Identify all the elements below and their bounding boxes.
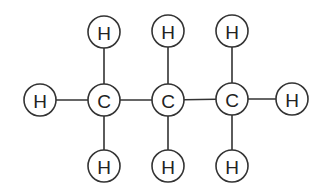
hydrogen-atom-h6: H [88, 150, 120, 182]
carbon-atom-c2: C [152, 84, 184, 116]
atom-label: H [97, 23, 111, 44]
hydrogen-atom-h7: H [152, 150, 184, 182]
atom-label: H [225, 157, 239, 178]
hydrogen-atom-h1: H [24, 84, 56, 116]
atom-label: H [33, 91, 47, 112]
hydrogen-atom-h2: H [276, 83, 308, 115]
propane-diagram: HCCCHHHHHHH [0, 0, 326, 194]
hydrogen-atom-h4: H [152, 15, 184, 47]
hydrogen-atom-h3: H [88, 16, 120, 48]
carbon-atom-c1: C [88, 84, 120, 116]
hydrogen-atom-h8: H [216, 150, 248, 182]
atom-label: C [225, 90, 239, 111]
atom-label: H [285, 90, 299, 111]
atom-label: H [161, 22, 175, 43]
hydrogen-atom-h5: H [216, 15, 248, 47]
atom-label: H [97, 157, 111, 178]
atom-label: C [161, 91, 175, 112]
atom-label: C [97, 91, 111, 112]
atom-label: H [225, 22, 239, 43]
atom-label: H [161, 157, 175, 178]
carbon-atom-c3: C [216, 83, 248, 115]
